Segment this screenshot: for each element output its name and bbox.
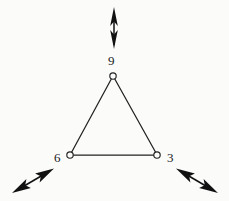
arrow-bottom-left-head-upper-right xyxy=(35,169,54,183)
figure-canvas: 9 6 3 xyxy=(0,0,229,201)
edge-apex-to-bottom-left xyxy=(72,79,112,152)
arrow-bottom-right-head-lower-right xyxy=(199,179,218,193)
node-label-bottom-right: 3 xyxy=(167,151,174,164)
arrow-bottom-right-double-headed xyxy=(176,169,218,194)
node-label-bottom-left: 6 xyxy=(54,151,61,164)
triangle-nodes xyxy=(67,73,160,158)
node-label-apex: 9 xyxy=(108,54,115,67)
arrow-bottom-left-head-lower-left xyxy=(12,179,31,193)
triangle-edges xyxy=(72,79,156,155)
node-apex[interactable] xyxy=(110,73,116,79)
triangle-diagram-svg xyxy=(0,0,229,201)
node-bottom-right[interactable] xyxy=(154,152,160,158)
arrow-bottom-left-double-headed xyxy=(12,169,54,194)
arrow-bottom-right-head-upper-left xyxy=(176,169,195,183)
arrow-apex-double-headed xyxy=(110,7,118,49)
node-bottom-left[interactable] xyxy=(67,152,73,158)
edge-apex-to-bottom-right xyxy=(115,79,156,152)
